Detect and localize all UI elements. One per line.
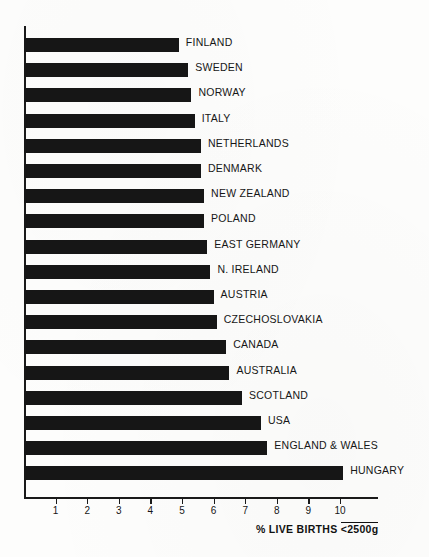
x-tick-label: 4 xyxy=(140,505,160,516)
x-tick-mark xyxy=(150,498,151,504)
bar-row: AUSTRALIA xyxy=(0,361,429,386)
bar xyxy=(24,63,188,77)
bar xyxy=(24,391,242,405)
bar-row: SCOTLAND xyxy=(0,386,429,411)
bar-row: EAST GERMANY xyxy=(0,235,429,260)
x-tick-label: 1 xyxy=(46,505,66,516)
bar xyxy=(24,189,204,203)
x-tick-label: 8 xyxy=(267,505,287,516)
bar-label: ENGLAND & WALES xyxy=(274,439,378,451)
x-tick-mark xyxy=(245,498,246,504)
bar xyxy=(24,88,191,102)
bar-row: POLAND xyxy=(0,209,429,234)
bar xyxy=(24,164,201,178)
bar-label: SWEDEN xyxy=(195,61,243,73)
x-tick-mark xyxy=(308,498,309,504)
bar-row: HUNGARY xyxy=(0,461,429,486)
bar xyxy=(24,416,261,430)
bar-row: NEW ZEALAND xyxy=(0,184,429,209)
bar-label: POLAND xyxy=(211,212,256,224)
bar-row: CZECHOSLOVAKIA xyxy=(0,310,429,335)
bar xyxy=(24,265,210,279)
x-tick-label: 9 xyxy=(298,505,318,516)
x-tick-mark xyxy=(87,498,88,504)
bar-label: EAST GERMANY xyxy=(214,238,300,250)
x-axis-title: % LIVE BIRTHS <2500g xyxy=(256,523,378,535)
x-tick-label: 5 xyxy=(172,505,192,516)
bar-row: SWEDEN xyxy=(0,58,429,83)
bar-row: USA xyxy=(0,411,429,436)
bar-row: DENMARK xyxy=(0,159,429,184)
x-tick-label: 7 xyxy=(235,505,255,516)
x-tick-mark xyxy=(214,498,215,504)
x-tick-label: 3 xyxy=(109,505,129,516)
bar-row: FINLAND xyxy=(0,33,429,58)
bar-label: NEW ZEALAND xyxy=(211,187,290,199)
bar-label: AUSTRALIA xyxy=(236,364,297,376)
bar-label: DENMARK xyxy=(208,162,262,174)
bar xyxy=(24,441,267,455)
bar-label: NORWAY xyxy=(198,86,245,98)
x-tick-label: 10 xyxy=(330,505,350,516)
bar xyxy=(24,240,207,254)
bar-label: ITALY xyxy=(202,112,231,124)
x-tick-label: 2 xyxy=(77,505,97,516)
bar xyxy=(24,38,179,52)
bar xyxy=(24,214,204,228)
bar xyxy=(24,466,343,480)
bar-label: CANADA xyxy=(233,338,278,350)
x-tick-mark xyxy=(119,498,120,504)
bar-row: ENGLAND & WALES xyxy=(0,436,429,461)
x-axis-title-unit: <2500g xyxy=(341,522,379,535)
x-tick-mark xyxy=(182,498,183,504)
bar-row: CANADA xyxy=(0,335,429,360)
bar-label: HUNGARY xyxy=(350,464,404,476)
plot-area: FINLANDSWEDENNORWAYITALYNETHERLANDSDENMA… xyxy=(0,0,429,557)
bar-label: FINLAND xyxy=(186,36,233,48)
x-tick-label: 6 xyxy=(204,505,224,516)
x-axis-line xyxy=(24,497,378,499)
bar-row: N. IRELAND xyxy=(0,260,429,285)
bar-label: USA xyxy=(268,414,290,426)
bar-row: AUSTRIA xyxy=(0,285,429,310)
bar xyxy=(24,290,214,304)
bar-label: CZECHOSLOVAKIA xyxy=(224,313,323,325)
bar-label: SCOTLAND xyxy=(249,389,308,401)
bar-row: ITALY xyxy=(0,109,429,134)
bar xyxy=(24,139,201,153)
bar-label: NETHERLANDS xyxy=(208,137,289,149)
x-tick-mark xyxy=(340,498,341,504)
bar xyxy=(24,340,226,354)
bar-row: NORWAY xyxy=(0,83,429,108)
chart-root: FINLANDSWEDENNORWAYITALYNETHERLANDSDENMA… xyxy=(0,0,429,557)
bar xyxy=(24,114,195,128)
bar-label: N. IRELAND xyxy=(217,263,278,275)
bar xyxy=(24,315,217,329)
x-tick-mark xyxy=(56,498,57,504)
bar-label: AUSTRIA xyxy=(221,288,268,300)
x-tick-mark xyxy=(277,498,278,504)
bar xyxy=(24,366,229,380)
bar-row: NETHERLANDS xyxy=(0,134,429,159)
x-axis-title-prefix: % LIVE BIRTHS xyxy=(256,523,341,535)
